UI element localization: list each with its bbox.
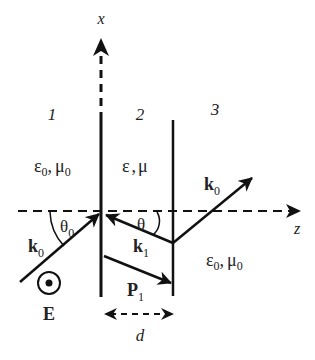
incident-k-label: k0 xyxy=(28,236,44,260)
theta0-label: θ0 xyxy=(60,217,74,240)
region-3-medium: ε0,μ0 xyxy=(206,250,243,273)
region-3-label: 3 xyxy=(210,100,220,119)
e-field-out-of-page-icon xyxy=(38,272,60,294)
transmitted-k-label: k0 xyxy=(204,174,220,198)
d-right-arrow-icon xyxy=(161,308,174,320)
x-axis-label: x xyxy=(96,10,104,27)
region-2-medium: ε,μ xyxy=(122,156,148,176)
region-2-label: 2 xyxy=(136,105,145,124)
thickness-dimension xyxy=(104,308,174,320)
p1-label: P1 xyxy=(127,280,144,304)
region-1-label: 1 xyxy=(48,105,57,124)
theta-label: θ xyxy=(137,215,145,234)
x-axis-arrow-icon xyxy=(93,38,109,56)
thickness-label: d xyxy=(136,326,145,345)
slab-diagram: x z 1 2 3 ε0,μ0 ε,μ ε0,μ0 k0 θ0 k1 θ P1 … xyxy=(0,0,315,360)
poynting-vector xyxy=(104,256,171,283)
theta-arc xyxy=(153,212,160,235)
k1-label: k1 xyxy=(133,236,149,260)
z-axis-label: z xyxy=(293,220,301,237)
e-field-label: E xyxy=(43,304,55,324)
region-1-medium: ε0,μ0 xyxy=(34,156,71,179)
